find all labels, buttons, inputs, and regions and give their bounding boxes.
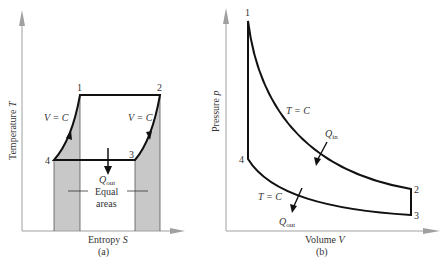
qin-arrow-icon	[314, 157, 321, 166]
x-axis-arrow-icon	[170, 228, 185, 234]
x-axis-arrow-icon	[423, 228, 440, 234]
equal-areas-label-1: Equal	[95, 186, 119, 197]
point-4-label-b: 4	[239, 154, 244, 165]
point-1-label-a: 1	[77, 82, 82, 93]
qin-label: Qin	[325, 128, 338, 141]
y-axis-arrow-icon	[223, 8, 229, 24]
x-axis-label-b: Volume V	[305, 234, 346, 245]
point-1-label-b: 1	[245, 7, 250, 18]
equal-areas-label-2: areas	[96, 198, 117, 209]
upper-curve-label: T = C	[286, 105, 310, 116]
y-axis-label-b: Pressure p	[210, 91, 221, 132]
panel-b-pv-diagram: 1 4 2 3 T = C T = C Qin Qout Volume V (b…	[210, 7, 440, 258]
qout-label-b: Qout	[279, 216, 295, 229]
cycle-b	[248, 21, 411, 215]
point-4-label-a: 4	[45, 155, 50, 166]
panel-a-ts-diagram: 1 2 3 4 V = C V = C Qout Equal areas Ent…	[7, 10, 185, 258]
point-3-label-b: 3	[414, 210, 419, 221]
diagram-canvas: 1 2 3 4 V = C V = C Qout Equal areas Ent…	[0, 0, 444, 263]
lower-curve-label: T = C	[258, 191, 282, 202]
x-axis-label-a: Entropy S	[88, 234, 128, 245]
point-2-label-a: 2	[157, 82, 162, 93]
caption-a: (a)	[98, 246, 109, 258]
point-2-label-b: 2	[414, 184, 419, 195]
left-curve-label: V = C	[44, 112, 69, 123]
point-3-label-a: 3	[129, 149, 134, 160]
y-axis-label-a: Temperature T	[7, 100, 18, 160]
y-axis-arrow-icon	[19, 10, 25, 26]
qout-arrow-icon-b	[290, 204, 297, 213]
right-curve-label: V = C	[128, 112, 153, 123]
caption-b: (b)	[316, 246, 328, 258]
